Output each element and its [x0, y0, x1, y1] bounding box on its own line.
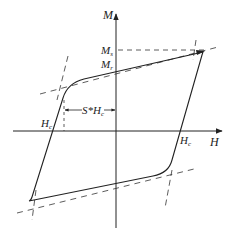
- mr-label: Mr: [100, 58, 113, 72]
- squareness-label: S*Hc: [82, 104, 105, 118]
- hysteresis-diagram: M H Ms Mr Hc Hc S*Hc: [0, 0, 232, 242]
- ms-label: Ms: [100, 44, 113, 58]
- hc-right-label: Hc: [179, 134, 192, 148]
- upper-asymptote-dashed: [40, 47, 218, 94]
- h-axis-label: H: [209, 135, 220, 149]
- left-steep-dashed: [57, 56, 68, 100]
- lower-asymptote-dashed: [17, 169, 194, 213]
- hc-left-label: Hc: [40, 117, 53, 131]
- m-axis-label: M: [102, 8, 114, 22]
